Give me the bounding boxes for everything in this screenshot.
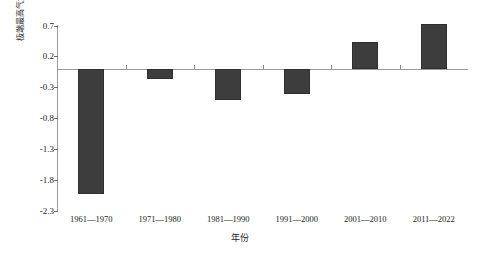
x-axis-tick-label: 1971—1980 (126, 214, 195, 226)
y-axis-tick-label-text: -2.3 (20, 206, 54, 216)
bar (352, 42, 378, 69)
x-axis-tick-label: 2001—2010 (331, 214, 400, 226)
y-axis-tick-label: -2.3 (16, 206, 54, 217)
y-axis-tick (54, 118, 58, 119)
y-axis-tick-label-text: -0.3 (20, 82, 54, 92)
bar (284, 69, 310, 94)
x-axis-tick-label: 1961—1970 (57, 214, 126, 226)
bar (78, 69, 104, 195)
y-axis-tick-label-text: 0.7 (20, 21, 54, 31)
y-axis-tick-label: 0.7 (16, 21, 54, 32)
x-axis-tick (331, 65, 332, 69)
y-axis-tick-label: -0.8 (16, 113, 54, 124)
y-axis-tick (54, 87, 58, 88)
y-axis-tick (54, 149, 58, 150)
y-axis-tick-label: -0.3 (16, 82, 54, 93)
bar (215, 69, 241, 101)
bar (421, 24, 447, 69)
chart-figure: 极端最高气温距平/°C 0.70.2-0.3-0.8-1.3-1.8-2.3 1… (0, 0, 480, 257)
zero-baseline (57, 69, 468, 70)
y-axis-tick-label-text: -1.8 (20, 175, 54, 185)
bar (147, 69, 173, 79)
x-axis-title: 年份 (0, 231, 480, 244)
x-axis-tick (400, 65, 401, 69)
y-axis-tick-label: -1.8 (16, 175, 54, 186)
x-axis-tick-label: 1991—2000 (263, 214, 332, 226)
x-axis-tick (126, 65, 127, 69)
y-axis-tick (54, 211, 58, 212)
y-axis-tick (54, 180, 58, 181)
y-axis-tick-label-text: -1.3 (20, 144, 54, 154)
y-axis-title: 极端最高气温距平/°C (14, 0, 28, 74)
y-axis-tick-label: 0.2 (16, 51, 54, 62)
x-axis-tick-label: 2011—2022 (400, 214, 469, 226)
y-axis-tick (54, 56, 58, 57)
x-axis-tick-label: 1981—1990 (194, 214, 263, 226)
x-axis-tick (263, 65, 264, 69)
x-axis-tick (194, 65, 195, 69)
y-axis-tick-label-text: -0.8 (20, 113, 54, 123)
y-axis-tick (54, 26, 58, 27)
y-axis-tick-label-text: 0.2 (20, 51, 54, 61)
y-axis-tick-label: -1.3 (16, 144, 54, 155)
